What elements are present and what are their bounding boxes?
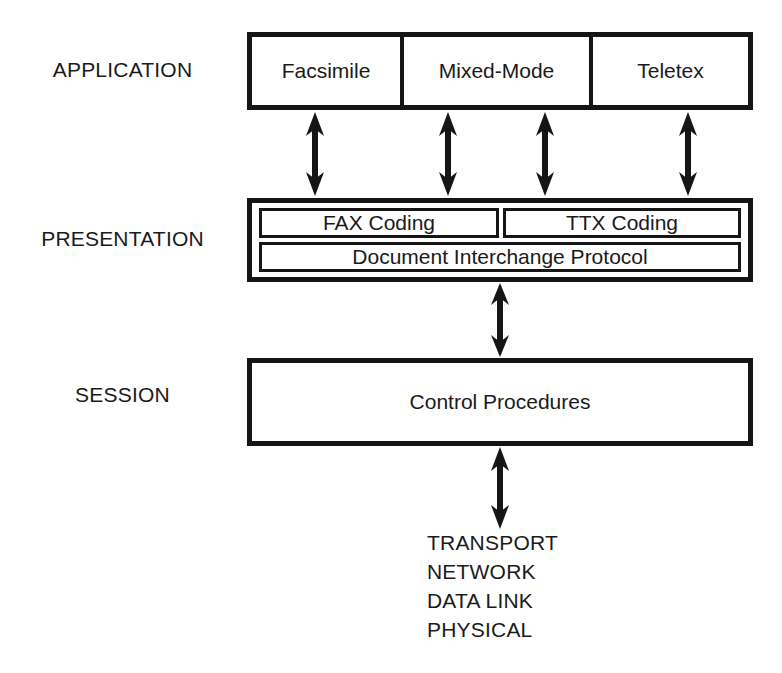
session-box-control-procedures: Control Procedures (252, 363, 748, 441)
application-layer-box: Facsimile Mixed-Mode Teletex (247, 32, 753, 110)
connector-presentation-session (481, 283, 519, 357)
connector-application-presentation-2 (429, 112, 467, 196)
application-box-mixed-mode: Mixed-Mode (404, 37, 593, 105)
lower-layers-stack: TRANSPORT NETWORK DATA LINK PHYSICAL (427, 528, 558, 644)
diagram-canvas: APPLICATION PRESENTATION SESSION Facsimi… (0, 0, 782, 673)
lower-layer-transport: TRANSPORT (427, 528, 558, 557)
connector-application-presentation-1 (296, 112, 334, 196)
layer-label-application: APPLICATION (0, 59, 245, 80)
presentation-box-document-interchange-protocol-label: Document Interchange Protocol (352, 245, 647, 269)
presentation-box-fax-coding-label: FAX Coding (323, 211, 435, 235)
application-box-teletex-label: Teletex (637, 59, 704, 83)
presentation-layer-box: FAX Coding TTX Coding Document Interchan… (247, 198, 753, 282)
session-box-control-procedures-label: Control Procedures (410, 390, 591, 414)
presentation-box-ttx-coding: TTX Coding (503, 208, 741, 238)
presentation-box-document-interchange-protocol: Document Interchange Protocol (259, 242, 741, 272)
application-box-teletex: Teletex (593, 37, 748, 105)
layer-label-session: SESSION (0, 384, 245, 405)
application-box-facsimile-label: Facsimile (282, 59, 371, 83)
presentation-box-ttx-coding-label: TTX Coding (566, 211, 678, 235)
application-box-facsimile: Facsimile (252, 37, 404, 105)
lower-layer-network: NETWORK (427, 557, 558, 586)
connector-session-transport (481, 447, 519, 529)
session-layer-box: Control Procedures (247, 358, 753, 446)
presentation-coding-row: FAX Coding TTX Coding (259, 208, 741, 238)
connector-application-presentation-4 (669, 112, 707, 196)
lower-layer-physical: PHYSICAL (427, 615, 558, 644)
lower-layer-data-link: DATA LINK (427, 586, 558, 615)
presentation-box-fax-coding: FAX Coding (259, 208, 499, 238)
layer-label-presentation: PRESENTATION (0, 228, 245, 249)
connector-application-presentation-3 (526, 112, 564, 196)
application-box-mixed-mode-label: Mixed-Mode (439, 59, 555, 83)
